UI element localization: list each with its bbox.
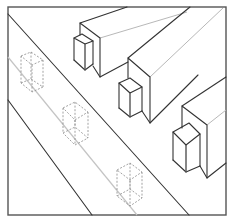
road-lines [8,14,189,215]
building-top-edge [207,110,226,125]
building-top-edge [100,12,187,38]
annex-top-face [119,78,142,93]
annex-top-face [74,34,93,44]
building-top-edge [150,8,223,77]
dashed-box-top [21,52,43,65]
building-2 [119,7,223,123]
building-edge [182,77,226,106]
annex-top-face [173,123,200,145]
building-edge [80,7,127,23]
building-edge [128,58,150,123]
road-edge-upper [8,14,189,215]
annex-bottom [74,60,93,70]
drawing-frame [8,7,226,215]
dashed-box-2 [63,102,88,145]
perspective-drawing [0,0,233,220]
dashed-box-bottom [117,189,142,206]
building-2-annex [119,78,142,117]
building-edge [93,62,128,77]
building-1-annex [74,34,93,70]
dashed-box-top [63,102,88,120]
drawing-svg [0,0,233,220]
dashed-box-3 [117,163,142,206]
dashed-box-top [117,163,142,180]
building-edge [128,7,190,58]
building-3-annex [173,123,200,172]
buildings [74,7,226,178]
building-1 [74,7,187,77]
dashed-boxes [21,52,142,206]
building-edge [200,163,226,178]
